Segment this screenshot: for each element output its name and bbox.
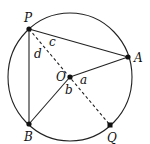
angle-label-b: b	[65, 83, 73, 97]
label-p: P	[23, 11, 33, 25]
label-b: B	[23, 130, 33, 144]
label-o: O	[56, 70, 66, 84]
point-a	[125, 54, 130, 59]
angle-label-a: a	[80, 73, 87, 87]
segment-oa	[70, 57, 128, 77]
angle-label-c: c	[49, 35, 56, 49]
point-p	[26, 26, 31, 31]
point-b	[26, 121, 31, 126]
label-a: A	[133, 51, 143, 65]
segment-ob	[29, 77, 70, 124]
angle-label-d: d	[34, 47, 42, 61]
point-o	[67, 74, 72, 79]
point-q	[108, 123, 113, 128]
label-q: Q	[107, 131, 117, 144]
segment-pa	[29, 29, 128, 57]
circle-geometry-diagram: P A O B Q c d a b	[0, 0, 150, 144]
